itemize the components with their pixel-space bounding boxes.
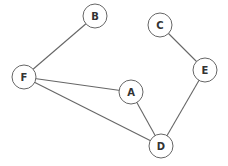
edge-e-d (161, 70, 205, 146)
edges (24, 16, 205, 146)
node-label: C (156, 20, 163, 31)
nodes: BCEFAD (12, 4, 217, 158)
node-label: E (202, 65, 209, 76)
node-b: B (83, 4, 107, 28)
node-a: A (119, 80, 143, 104)
node-e: E (193, 58, 217, 82)
node-d: D (149, 134, 173, 158)
graph-diagram: BCEFAD (0, 0, 228, 166)
edge-f-b (24, 16, 95, 77)
node-label: A (127, 87, 135, 98)
node-label: B (91, 11, 99, 22)
node-c: C (148, 13, 172, 37)
node-label: F (21, 72, 28, 83)
node-f: F (12, 65, 36, 89)
node-label: D (157, 141, 165, 152)
